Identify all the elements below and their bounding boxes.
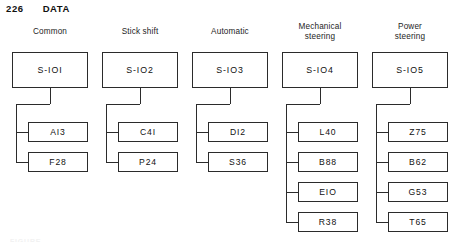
connector-child-stub: [196, 162, 208, 163]
tree-child-node[interactable]: S36: [208, 152, 268, 172]
tree-child-node[interactable]: EIO: [298, 182, 358, 202]
connector-root-drop: [410, 88, 411, 104]
connector-child-stub: [196, 132, 208, 133]
column-title: Automatic: [178, 27, 282, 37]
connector-child-stub: [376, 222, 388, 223]
connector-root-jog: [286, 104, 320, 105]
figure-tree-diagram: CommonS-IOIAI3F28Stick shiftS-IO2C4IP24A…: [0, 0, 454, 242]
connector-child-stub: [376, 192, 388, 193]
connector-child-stub: [376, 162, 388, 163]
tree-child-node[interactable]: B62: [388, 152, 448, 172]
connector-root-drop: [320, 88, 321, 104]
tree-child-node[interactable]: B88: [298, 152, 358, 172]
tree-child-node[interactable]: P24: [118, 152, 178, 172]
connector-bus: [106, 104, 107, 162]
tree-child-node[interactable]: F28: [28, 152, 88, 172]
connector-child-stub: [286, 192, 298, 193]
connector-child-stub: [106, 162, 118, 163]
connector-root-drop: [230, 88, 231, 104]
connector-bus: [16, 104, 17, 162]
connector-child-stub: [106, 132, 118, 133]
connector-root-drop: [50, 88, 51, 104]
tree-child-node[interactable]: R38: [298, 212, 358, 232]
tree-child-node[interactable]: AI3: [28, 122, 88, 142]
column-title: Mechanical steering: [268, 22, 372, 41]
figure-caption: FIGURE: [10, 237, 41, 242]
column-title: Stick shift: [88, 27, 192, 37]
tree-child-node[interactable]: G53: [388, 182, 448, 202]
connector-bus: [376, 104, 377, 222]
tree-child-node[interactable]: C4I: [118, 122, 178, 142]
connector-root-drop: [140, 88, 141, 104]
connector-child-stub: [16, 162, 28, 163]
tree-root-node[interactable]: S-IOI: [12, 52, 88, 88]
tree-root-node[interactable]: S-IO2: [102, 52, 178, 88]
tree-root-node[interactable]: S-IO5: [372, 52, 448, 88]
connector-root-jog: [106, 104, 140, 105]
connector-root-jog: [376, 104, 410, 105]
tree-root-node[interactable]: S-IO4: [282, 52, 358, 88]
tree-child-node[interactable]: Z75: [388, 122, 448, 142]
connector-root-jog: [16, 104, 50, 105]
connector-child-stub: [286, 222, 298, 223]
tree-child-node[interactable]: DI2: [208, 122, 268, 142]
tree-root-node[interactable]: S-IO3: [192, 52, 268, 88]
column-title: Common: [0, 27, 102, 37]
tree-child-node[interactable]: L40: [298, 122, 358, 142]
connector-bus: [286, 104, 287, 222]
connector-child-stub: [16, 132, 28, 133]
connector-child-stub: [286, 132, 298, 133]
connector-root-jog: [196, 104, 230, 105]
connector-bus: [196, 104, 197, 162]
column-title: Power steering: [358, 22, 454, 41]
tree-child-node[interactable]: T65: [388, 212, 448, 232]
connector-child-stub: [376, 132, 388, 133]
connector-child-stub: [286, 162, 298, 163]
